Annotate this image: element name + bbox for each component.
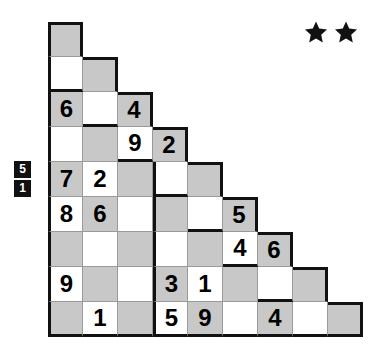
grid-row: 46 [48, 232, 363, 267]
grid-cell-given: 9 [48, 267, 83, 302]
grid-cell-empty[interactable] [48, 232, 83, 267]
grid-cell-empty[interactable] [118, 162, 153, 197]
cell-value: 2 [162, 133, 175, 157]
grid-cell-empty[interactable] [223, 267, 258, 302]
grid-cell-empty[interactable] [118, 302, 153, 337]
grid-cell-empty[interactable] [153, 197, 188, 232]
cell-value: 9 [128, 131, 141, 155]
grid-cell-given: 6 [83, 197, 118, 232]
row-clue-chip-top: 5 [14, 161, 31, 178]
cell-value: 6 [60, 97, 73, 121]
cell-value: 1 [93, 306, 106, 330]
grid-cell-empty[interactable] [118, 197, 153, 232]
cell-value: 6 [267, 238, 280, 262]
cell-value: 9 [198, 306, 211, 330]
cell-value: 4 [233, 236, 246, 260]
grid-cell-given: 7 [48, 162, 83, 197]
grid-row: 931 [48, 267, 363, 302]
grid-cell-empty[interactable] [83, 92, 118, 127]
grid-cell-empty[interactable] [153, 162, 188, 197]
grid-cell-empty[interactable] [293, 302, 328, 337]
grid-cell-empty[interactable] [188, 162, 223, 197]
grid-cell-given: 6 [258, 232, 293, 267]
row-clue-markers: 5 1 [14, 161, 31, 197]
grid-row: 1594 [48, 302, 363, 337]
cell-value: 5 [165, 306, 178, 330]
row-clue-chip-bottom: 1 [14, 180, 31, 197]
puzzle-grid: 649272865469311594 [48, 22, 363, 337]
grid-cell-empty[interactable] [328, 302, 363, 337]
grid-cell-empty[interactable] [83, 267, 118, 302]
grid-cell-given: 1 [188, 267, 223, 302]
grid-row: 92 [48, 127, 363, 162]
grid-row [48, 22, 363, 57]
grid-cell-empty[interactable] [188, 232, 223, 267]
cell-value: 1 [198, 272, 211, 296]
grid-cell-empty[interactable] [153, 232, 188, 267]
grid-cell-empty[interactable] [258, 267, 293, 302]
grid-cell-given: 3 [153, 267, 188, 302]
cell-value: 4 [127, 98, 140, 122]
cell-value: 2 [93, 167, 106, 191]
grid-cell-empty[interactable] [293, 267, 328, 302]
grid-cell-given: 6 [48, 92, 83, 127]
grid-cell-given: 8 [48, 197, 83, 232]
grid-row: 64 [48, 92, 363, 127]
grid-cell-empty[interactable] [83, 57, 118, 92]
grid-cell-given: 4 [118, 92, 153, 127]
grid-cell-empty[interactable] [83, 127, 118, 162]
grid-cell-empty[interactable] [118, 232, 153, 267]
grid-cell-empty[interactable] [48, 22, 83, 57]
cell-value: 9 [60, 272, 73, 296]
grid-cell-empty[interactable] [48, 302, 83, 337]
cell-value: 3 [165, 272, 178, 296]
grid-cell-given: 4 [258, 302, 293, 337]
cell-value: 5 [232, 203, 245, 227]
grid-cell-given: 5 [153, 302, 188, 337]
grid-cell-given: 9 [188, 302, 223, 337]
grid-row [48, 57, 363, 92]
grid-row: 72 [48, 162, 363, 197]
grid-cell-given: 2 [153, 127, 188, 162]
grid-cell-given: 2 [83, 162, 118, 197]
grid-cell-empty[interactable] [48, 57, 83, 92]
cell-value: 6 [93, 202, 106, 226]
grid-cell-given: 5 [223, 197, 258, 232]
grid-cell-given: 9 [118, 127, 153, 162]
grid-cell-empty[interactable] [188, 197, 223, 232]
grid-row: 865 [48, 197, 363, 232]
grid-cell-empty[interactable] [48, 127, 83, 162]
grid-cell-empty[interactable] [118, 267, 153, 302]
puzzle-root: 5 1 649272865469311594 [0, 0, 374, 364]
grid-cell-given: 4 [223, 232, 258, 267]
grid-cell-empty[interactable] [83, 232, 118, 267]
grid-cell-given: 1 [83, 302, 118, 337]
cell-value: 8 [60, 202, 73, 226]
cell-value: 7 [60, 167, 73, 191]
cell-value: 4 [268, 306, 281, 330]
grid-cell-empty[interactable] [223, 302, 258, 337]
